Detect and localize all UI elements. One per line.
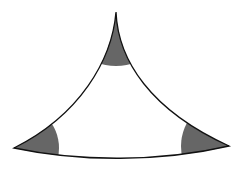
diagram-canvas [0,0,242,170]
curvilinear-triangle-figure [0,0,242,170]
left-shaded-sector [0,103,59,170]
top-shaded-sector [62,0,170,66]
right-shaded-sector [181,98,242,170]
